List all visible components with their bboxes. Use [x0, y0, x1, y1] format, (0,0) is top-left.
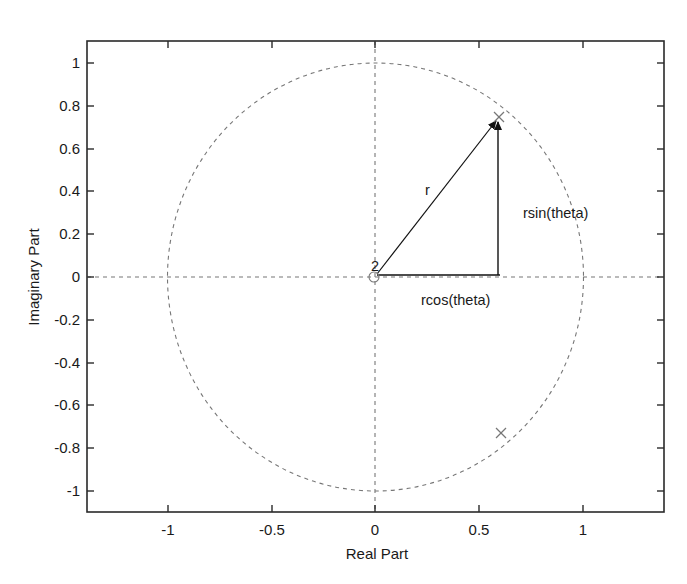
- y-tick-label: 0.4: [59, 182, 80, 199]
- rcos-label: rcos(theta): [421, 292, 490, 308]
- y-tick-label: 0.2: [59, 225, 80, 242]
- y-tick-label: -0.4: [54, 354, 80, 371]
- r-label: r: [425, 182, 430, 198]
- y-tick-label: 0: [72, 268, 80, 285]
- y-tick-label: 0.6: [59, 140, 80, 157]
- x-tick-label: 0: [371, 521, 379, 538]
- x-tick-label: 1: [579, 521, 587, 538]
- y-tick-label: -1: [67, 482, 80, 499]
- y-tick-label: 1: [72, 54, 80, 71]
- x-tick-label: -1: [161, 521, 174, 538]
- y-tick-label: -0.2: [54, 311, 80, 328]
- pole-zero-plot: -1 -0.5 0 0.5 1 1 0.8 0.6 0.4 0.2 0 -0.2…: [0, 0, 687, 584]
- x-tick-label: 0.5: [469, 521, 490, 538]
- y-axis-label: Imaginary Part: [25, 227, 42, 325]
- y-tick-label: -0.6: [54, 396, 80, 413]
- y-tick-labels: 1 0.8 0.6 0.4 0.2 0 -0.2 -0.4 -0.6 -0.8 …: [54, 54, 80, 499]
- x-axis-label: Real Part: [346, 545, 409, 562]
- zero-multiplicity-label: 2: [371, 258, 379, 274]
- y-tick-label: -0.8: [54, 439, 80, 456]
- y-tick-label: 0.8: [59, 97, 80, 114]
- rsin-label: rsin(theta): [523, 205, 588, 221]
- x-tick-label: -0.5: [259, 521, 285, 538]
- x-tick-labels: -1 -0.5 0 0.5 1: [161, 521, 587, 538]
